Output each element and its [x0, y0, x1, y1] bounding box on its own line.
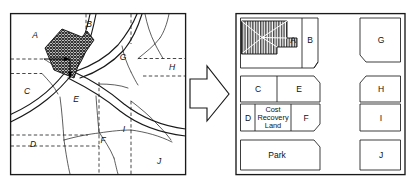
before-label-J: J — [156, 156, 162, 166]
panel-after: A B G C E D Cost Recovery Land F — [236, 14, 405, 175]
figure-root: A B C D E F G H I J — [0, 0, 415, 188]
before-label-A: A — [31, 30, 38, 40]
after-label-C: C — [255, 84, 261, 94]
after-label-B: B — [307, 35, 313, 45]
cost-recovery-label-line3: Land — [265, 121, 281, 130]
before-label-B: B — [86, 19, 92, 29]
after-label-D: D — [245, 113, 251, 123]
before-label-E: E — [73, 94, 79, 104]
transformation-arrow — [190, 66, 229, 121]
after-block-park: Park — [241, 140, 321, 170]
after-label-F: F — [303, 113, 308, 123]
after-label-G: G — [378, 35, 385, 45]
after-block-right-column: H I J — [360, 76, 401, 170]
before-label-C: C — [24, 86, 31, 96]
after-block-mid-left: C E — [241, 76, 321, 102]
before-label-D: D — [30, 139, 36, 149]
land-readjustment-figure: A B C D E F G H I J — [0, 0, 415, 188]
after-block-cost-recovery: D Cost Recovery Land F — [241, 104, 321, 131]
before-label-H: H — [169, 62, 176, 72]
after-block-top-left: A B — [241, 18, 319, 68]
after-block-top-right: G — [360, 18, 401, 62]
panel-before: A B C D E F G H I J — [11, 14, 186, 175]
after-label-I: I — [380, 113, 382, 123]
park-label: Park — [268, 150, 286, 160]
before-label-G: G — [120, 52, 127, 62]
after-label-J: J — [379, 150, 383, 160]
before-label-F: F — [100, 135, 106, 145]
after-label-E: E — [296, 84, 302, 94]
after-label-A: A — [290, 35, 296, 45]
after-label-H: H — [378, 84, 384, 94]
